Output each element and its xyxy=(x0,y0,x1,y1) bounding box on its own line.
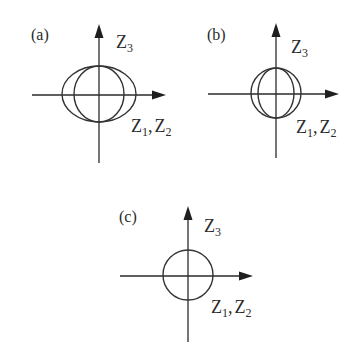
arrow-right-icon xyxy=(152,91,166,100)
panel-label-c: (c) xyxy=(119,208,137,226)
arrow-up-icon xyxy=(95,24,104,38)
axis-label-z1-z2: Z1,Z2 xyxy=(211,297,252,320)
panel-label-a: (a) xyxy=(31,26,49,44)
panel-b: (b) Z3 Z1,Z2 xyxy=(207,23,339,158)
panel-a: (a) Z3 Z1,Z2 xyxy=(31,24,172,163)
panel-label-b: (b) xyxy=(207,26,226,44)
arrow-right-icon xyxy=(325,90,339,99)
panel-c: (c) Z3 Z1,Z2 xyxy=(119,206,253,342)
arrow-up-icon xyxy=(184,206,193,220)
axis-label-z1-z2: Z1,Z2 xyxy=(131,116,172,139)
arrow-right-icon xyxy=(239,272,253,281)
axis-label-z3: Z3 xyxy=(204,216,221,239)
axis-label-z3: Z3 xyxy=(291,37,308,60)
axis-label-z3: Z3 xyxy=(116,32,133,55)
arrow-up-icon xyxy=(272,23,281,37)
axis-label-z1-z2: Z1,Z2 xyxy=(296,117,337,140)
figure-three-panels: (a) Z3 Z1,Z2 (b) Z3 Z1,Z2 (c) Z3 Z1,Z2 xyxy=(0,0,345,344)
